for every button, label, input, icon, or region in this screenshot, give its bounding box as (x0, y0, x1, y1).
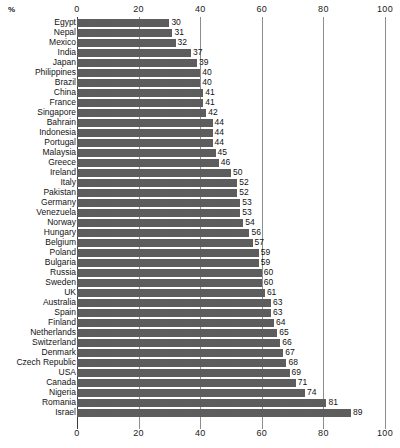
bar (77, 339, 280, 347)
category-label: Belgium (45, 237, 76, 247)
bar-value-label: 81 (328, 397, 337, 407)
bar-value-label: 41 (205, 87, 214, 97)
bar-value-label: 61 (267, 287, 276, 297)
bar (77, 209, 240, 217)
bar-value-label: 44 (215, 117, 224, 127)
category-label: Netherlands (30, 327, 76, 337)
x-axis-top: 020406080100 (0, 4, 400, 18)
x-tick-label: 60 (256, 428, 267, 438)
bar-value-label: 66 (282, 337, 291, 347)
bar-value-label: 39 (199, 57, 208, 67)
category-label: Indonesia (39, 127, 76, 137)
bar-value-label: 46 (221, 157, 230, 167)
bar (77, 279, 262, 287)
bar-value-label: 59 (261, 257, 270, 267)
x-tick-label: 80 (318, 428, 329, 438)
x-tick-label: 0 (74, 428, 79, 438)
category-label: Romania (42, 397, 76, 407)
bar-value-label: 71 (298, 377, 307, 387)
bar-chart: % 020406080100 Egypt30Nepal31Mexico32Ind… (0, 0, 400, 448)
category-label: China (54, 87, 76, 97)
category-label: Greece (48, 157, 76, 167)
category-label: Nepal (54, 27, 76, 37)
bar (77, 199, 240, 207)
category-label: Australia (43, 297, 76, 307)
bar (77, 269, 262, 277)
bar (77, 249, 259, 257)
plot-area: Egypt30Nepal31Mexico32India37Japan39Phil… (0, 18, 400, 428)
bar (77, 349, 283, 357)
category-label: Japan (53, 57, 76, 67)
bar-value-label: 65 (279, 327, 288, 337)
category-label: Poland (50, 247, 76, 257)
bar-value-label: 45 (218, 147, 227, 157)
bar-value-label: 63 (273, 297, 282, 307)
category-label: Portugal (44, 137, 76, 147)
bar-value-label: 56 (251, 227, 260, 237)
bar-value-label: 44 (215, 127, 224, 137)
category-label: Pakistan (43, 187, 76, 197)
x-tick-label: 20 (133, 4, 144, 14)
x-tick-label: 40 (195, 428, 206, 438)
category-label: Bulgaria (45, 257, 76, 267)
chart-row: Israel89 (0, 408, 400, 418)
bar (77, 219, 243, 227)
bar (77, 309, 271, 317)
bar (77, 39, 176, 47)
bar (77, 59, 197, 67)
bar (77, 139, 213, 147)
bar-value-label: 54 (245, 217, 254, 227)
category-label: Denmark (42, 347, 76, 357)
bar-value-label: 64 (276, 317, 285, 327)
x-tick-label: 40 (195, 4, 206, 14)
bar (77, 129, 213, 137)
bar (77, 89, 203, 97)
category-label: Spain (54, 307, 76, 317)
category-label: UK (64, 287, 76, 297)
bar (77, 379, 296, 387)
bar-value-label: 52 (239, 187, 248, 197)
bar (77, 49, 191, 57)
category-label: Venezuela (36, 207, 76, 217)
bar (77, 399, 326, 407)
category-label: Germany (41, 197, 76, 207)
bar-value-label: 74 (307, 387, 316, 397)
category-label: Malaysia (42, 147, 76, 157)
bar (77, 319, 274, 327)
category-label: Switzerland (32, 337, 76, 347)
category-label: Brazil (55, 77, 76, 87)
bar (77, 109, 206, 117)
category-label: Czech Republic (16, 357, 76, 367)
bar (77, 159, 219, 167)
bar (77, 329, 277, 337)
bar-value-label: 89 (353, 407, 362, 417)
category-label: Norway (47, 217, 76, 227)
bar-value-label: 30 (171, 17, 180, 27)
bar-value-label: 32 (178, 37, 187, 47)
category-label: Hungary (44, 227, 76, 237)
category-label: Canada (46, 377, 76, 387)
bar-value-label: 60 (264, 267, 273, 277)
bar (77, 229, 249, 237)
category-label: Russia (50, 267, 76, 277)
bar (77, 119, 213, 127)
bar (77, 239, 253, 247)
bar-value-label: 40 (202, 67, 211, 77)
bar (77, 289, 265, 297)
bar-value-label: 53 (242, 197, 251, 207)
bar-value-label: 44 (215, 137, 224, 147)
bar-value-label: 67 (285, 347, 294, 357)
bar (77, 389, 305, 397)
bar-value-label: 50 (233, 167, 242, 177)
category-label: Italy (60, 177, 76, 187)
bar (77, 79, 200, 87)
category-label: Israel (55, 407, 76, 417)
bar (77, 179, 237, 187)
category-label: Sweden (45, 277, 76, 287)
bar-value-label: 40 (202, 77, 211, 87)
bar-value-label: 68 (288, 357, 297, 367)
category-label: Finland (48, 317, 76, 327)
x-axis-bottom: 020406080100 (0, 428, 400, 442)
bar (77, 369, 290, 377)
bar (77, 409, 351, 417)
